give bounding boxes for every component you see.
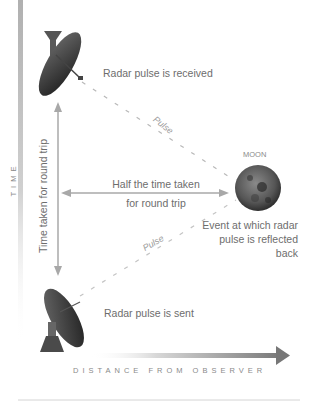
label-reflect-3: back	[198, 247, 298, 259]
label-half-time-1: Half the time taken	[96, 178, 216, 190]
label-pulse-sent: Radar pulse is sent	[104, 307, 194, 319]
moon-icon	[235, 165, 281, 211]
label-pulse-received: Radar pulse is received	[103, 67, 213, 79]
half-time-arrow	[61, 189, 229, 197]
label-reflect-1: Event at which radar	[198, 219, 298, 231]
label-half-time-2: for round trip	[96, 197, 216, 209]
distance-axis-arrow	[90, 346, 290, 365]
label-round-trip: Time taken for round trip	[37, 131, 49, 261]
radar-dish-sender-icon	[36, 283, 92, 353]
label-moon: MOON	[243, 150, 266, 159]
pulse-path-return	[82, 82, 234, 180]
radar-dish-receiver-icon	[31, 26, 90, 101]
label-reflect-2: pulse is reflected	[198, 233, 298, 245]
round-trip-arrow	[54, 102, 62, 276]
time-axis	[18, 0, 23, 345]
axis-label-time: TIME	[9, 155, 18, 205]
axis-label-distance: DISTANCE FROM OBSERVER	[73, 366, 266, 375]
